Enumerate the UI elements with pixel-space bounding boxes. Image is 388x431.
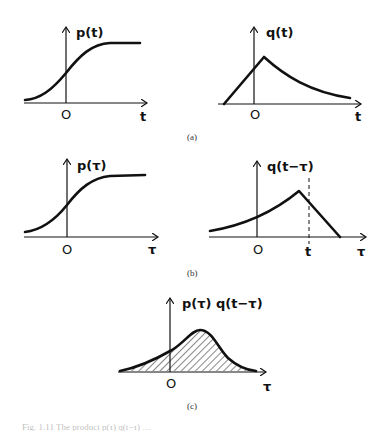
x-axis-label: τ xyxy=(357,244,365,259)
y-axis-label: q(t−τ) xyxy=(267,159,314,174)
t-marker-label: t xyxy=(305,244,311,259)
y-axis-label: p(τ) q(t−τ) xyxy=(182,296,263,311)
x-axis-label: τ xyxy=(263,379,271,394)
q-curve xyxy=(224,57,350,104)
x-axis-label: τ xyxy=(148,242,156,257)
x-axis-label: t xyxy=(355,109,361,124)
origin-label: O xyxy=(250,107,260,122)
panel-a-left: p(t) O t xyxy=(24,25,147,124)
sublabel-c: (c) xyxy=(187,401,197,411)
y-axis-label: p(t) xyxy=(76,25,103,40)
panel-a-right: q(t) O t xyxy=(218,25,361,124)
panel-b-right: q(t−τ) O t τ xyxy=(209,159,366,259)
y-axis-label: q(t) xyxy=(266,25,293,40)
x-axis-label: t xyxy=(140,109,146,124)
origin-label: O xyxy=(62,242,72,257)
y-axis-label: p(τ) xyxy=(77,158,107,173)
origin-label: O xyxy=(253,242,263,257)
sublabel-b: (b) xyxy=(187,268,198,278)
panel-c: p(τ) q(t−τ) O τ xyxy=(118,296,271,394)
origin-label: O xyxy=(166,376,176,391)
origin-label: O xyxy=(61,107,71,122)
convolution-figure: p(t) O t q(t) O t (a) p(τ) O τ q(t−τ) O … xyxy=(0,0,388,431)
sigmoid-curve xyxy=(25,43,140,100)
figure-caption: Fig. 1.11 The product p(τ) q(t−τ) … xyxy=(22,422,151,431)
sublabel-a: (a) xyxy=(187,132,197,142)
mirrored-q-curve xyxy=(210,191,340,237)
panel-b-left: p(τ) O τ xyxy=(24,158,158,257)
sigmoid-curve xyxy=(25,175,145,232)
